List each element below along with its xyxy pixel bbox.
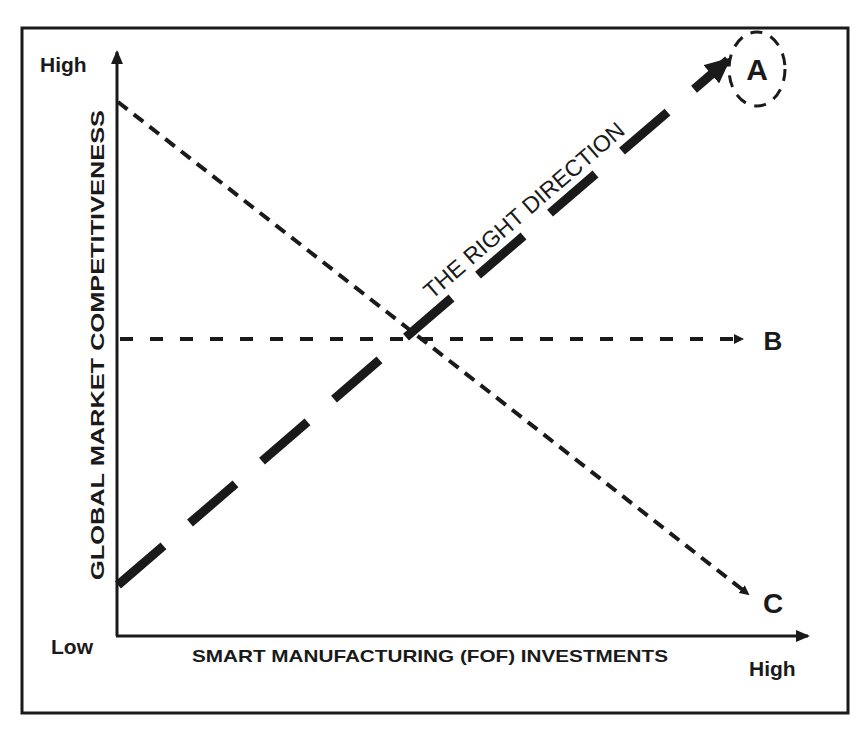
right-direction-annotation: THE RIGHT DIRECTION bbox=[418, 117, 629, 304]
y-axis-high-label: High bbox=[40, 53, 87, 76]
path-a-label: A bbox=[746, 53, 768, 86]
path-a-line bbox=[118, 60, 728, 585]
path-c-label: C bbox=[763, 588, 783, 619]
y-axis-low-label: Low bbox=[51, 635, 94, 658]
path-b-label: B bbox=[764, 326, 783, 356]
y-axis-title: GLOBAL MARKET COMPETITIVENESS bbox=[88, 110, 108, 580]
competitiveness-diagram: A B C THE RIGHT DIRECTION High Low High … bbox=[0, 0, 867, 737]
x-axis-high-label: High bbox=[749, 657, 796, 680]
path-c-line bbox=[118, 102, 748, 594]
x-axis-title: SMART MANUFACTURING (FOF) INVESTMENTS bbox=[192, 647, 668, 666]
figure-frame bbox=[22, 28, 848, 713]
